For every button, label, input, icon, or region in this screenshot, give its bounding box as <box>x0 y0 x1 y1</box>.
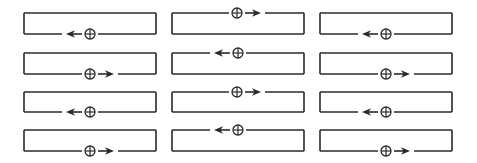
loop-cell <box>24 53 156 79</box>
circled-plus-icon <box>381 69 391 79</box>
circled-plus-icon <box>233 125 243 135</box>
loop-cell <box>320 130 452 156</box>
loop-cell <box>320 92 452 117</box>
loop-cell <box>172 48 304 74</box>
loop-cell <box>172 8 304 34</box>
loop-cell <box>172 125 304 151</box>
loop-cell <box>24 130 156 156</box>
circled-plus-icon <box>85 29 95 39</box>
loop-cell <box>24 13 156 39</box>
circled-plus-icon <box>381 146 391 156</box>
circled-plus-icon <box>85 107 95 117</box>
circled-plus-icon <box>85 69 95 79</box>
loop-cell <box>172 87 304 112</box>
loop-diagram <box>0 0 477 163</box>
circled-plus-icon <box>381 29 391 39</box>
circled-plus-icon <box>233 48 243 58</box>
circled-plus-icon <box>85 146 95 156</box>
loop-cell <box>320 13 452 39</box>
loop-cell <box>24 92 156 117</box>
loop-cell <box>320 53 452 79</box>
circled-plus-icon <box>232 8 242 18</box>
circled-plus-icon <box>381 107 391 117</box>
circled-plus-icon <box>232 87 242 97</box>
